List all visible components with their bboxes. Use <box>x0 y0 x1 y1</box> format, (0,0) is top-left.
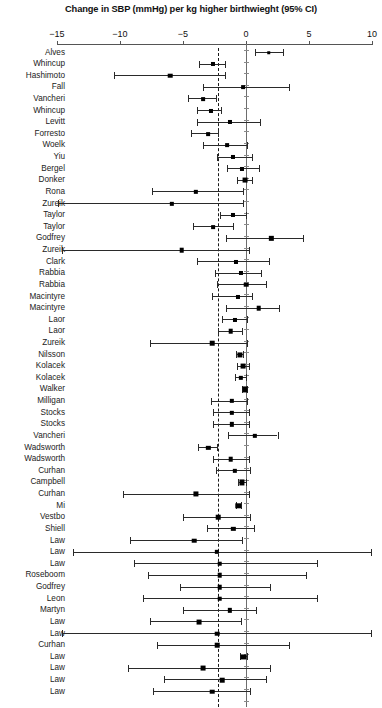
study-label: Vancheri <box>0 93 65 105</box>
ci-upper-cap <box>260 119 261 126</box>
ci-upper-cap <box>252 293 253 300</box>
study-label: Law <box>0 616 65 628</box>
forest-row: Vancheri <box>0 93 382 105</box>
forest-row: Forresto <box>0 128 382 140</box>
ci-lower-cap <box>62 247 63 254</box>
ci-upper-cap <box>252 177 253 184</box>
ci-lower-cap <box>228 432 229 439</box>
point-estimate-marker <box>193 190 197 194</box>
ci-upper-cap <box>306 572 307 579</box>
point-estimate-marker <box>225 144 229 148</box>
ci-upper-cap <box>249 247 250 254</box>
point-estimate-marker <box>215 643 220 648</box>
ci-lower-cap <box>130 537 131 544</box>
study-label: Shiell <box>0 523 65 535</box>
ci-lower-cap <box>128 665 129 672</box>
point-estimate-marker <box>239 271 243 275</box>
point-estimate-marker <box>228 120 232 124</box>
point-estimate-marker <box>179 248 184 253</box>
forest-row: Laor <box>0 325 382 337</box>
forest-row: Whincup <box>0 105 382 117</box>
forest-row: Mi <box>0 500 382 512</box>
study-label: Law <box>0 546 65 558</box>
confidence-interval-line <box>62 250 248 251</box>
ci-lower-cap <box>203 142 204 149</box>
point-estimate-marker <box>233 469 237 473</box>
forest-row: Nilsson <box>0 349 382 361</box>
study-label: Law <box>0 535 65 547</box>
forest-row: Law <box>0 674 382 686</box>
study-label: Rabbia <box>0 279 65 291</box>
forest-row: Alves <box>0 47 382 59</box>
point-estimate-marker <box>215 631 220 636</box>
forest-row: Law <box>0 628 382 640</box>
forest-row: Kolacek <box>0 372 382 384</box>
forest-plot-figure: Change in SBP (mmHg) per kg higher birth… <box>0 0 382 708</box>
forest-row: Curhan <box>0 465 382 477</box>
forest-row: Wadsworth <box>0 453 382 465</box>
forest-row: Yiu <box>0 151 382 163</box>
forest-row: Zureik <box>0 337 382 349</box>
point-estimate-marker <box>229 457 234 462</box>
ci-upper-cap <box>221 107 222 114</box>
forest-row: Bergel <box>0 163 382 175</box>
confidence-interval-line <box>153 691 250 692</box>
ci-lower-cap <box>227 165 228 172</box>
study-label: Kolacek <box>0 360 65 372</box>
ci-upper-cap <box>247 386 248 393</box>
forest-row: Law <box>0 686 382 698</box>
ci-lower-cap <box>213 456 214 463</box>
point-estimate-marker <box>256 306 261 311</box>
study-label: Curhan <box>0 488 65 500</box>
ci-upper-cap <box>246 374 247 381</box>
confidence-interval-line <box>215 273 262 274</box>
study-label: Yiu <box>0 151 65 163</box>
forest-row: Vancheri <box>0 430 382 442</box>
point-estimate-marker <box>193 491 198 496</box>
ci-upper-cap <box>249 421 250 428</box>
forest-row: Campbell <box>0 476 382 488</box>
point-estimate-marker <box>230 422 234 426</box>
ci-upper-cap <box>246 212 247 219</box>
forest-row: Wadsworth <box>0 442 382 454</box>
study-label: Law <box>0 651 65 663</box>
point-estimate-marker <box>206 445 210 449</box>
study-label: Law <box>0 674 65 686</box>
ci-lower-cap <box>213 409 214 416</box>
point-estimate-marker <box>236 503 241 508</box>
point-estimate-marker <box>229 329 234 334</box>
study-label: Kolacek <box>0 372 65 384</box>
study-label: Curhan <box>0 465 65 477</box>
point-estimate-marker <box>217 561 222 566</box>
ci-upper-cap <box>225 72 226 79</box>
study-label: Stocks <box>0 418 65 430</box>
forest-row: Donker <box>0 174 382 186</box>
ci-upper-cap <box>371 630 372 637</box>
confidence-interval-line <box>203 87 289 88</box>
ci-lower-cap <box>199 61 200 68</box>
forest-row: Zureik <box>0 244 382 256</box>
ci-upper-cap <box>289 84 290 91</box>
ci-upper-cap <box>243 188 244 195</box>
study-label: Fall <box>0 81 65 93</box>
confidence-interval-line <box>157 645 289 646</box>
ci-upper-cap <box>266 281 267 288</box>
point-estimate-marker <box>253 434 257 438</box>
point-estimate-marker <box>211 225 215 229</box>
point-estimate-marker <box>239 376 243 380</box>
point-estimate-marker <box>242 387 247 392</box>
forest-row: Taylor <box>0 209 382 221</box>
ci-lower-cap <box>197 258 198 265</box>
study-label: Clark <box>0 256 65 268</box>
point-estimate-marker <box>269 236 273 240</box>
ci-lower-cap <box>226 305 227 312</box>
forest-row: Rabbia <box>0 267 382 279</box>
forest-row: Rabbia <box>0 279 382 291</box>
point-estimate-marker <box>267 51 271 55</box>
ci-upper-cap <box>249 456 250 463</box>
point-estimate-marker <box>217 573 222 578</box>
ci-lower-cap <box>183 514 184 521</box>
ci-lower-cap <box>153 688 154 695</box>
point-estimate-marker <box>242 178 247 183</box>
confidence-interval-line <box>128 668 270 669</box>
